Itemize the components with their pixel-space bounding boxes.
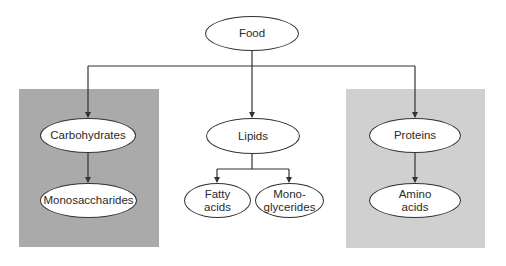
node-monoglycerides: Mono- glycerides (255, 183, 324, 218)
node-food: Food (205, 16, 299, 51)
node-fatty-acids-label: Fatty acids (204, 188, 231, 214)
node-amino-acids: Amino acids (369, 183, 461, 218)
node-lipids-label: Lipids (238, 130, 268, 143)
node-carbohydrates-label: Carbohydrates (50, 129, 125, 142)
node-monoglycerides-label: Mono- glycerides (264, 188, 316, 214)
node-lipids: Lipids (206, 118, 300, 154)
node-proteins-label: Proteins (394, 129, 436, 142)
node-food-label: Food (239, 27, 265, 40)
node-monosaccharides: Monosaccharides (40, 183, 137, 218)
node-monosaccharides-label: Monosaccharides (43, 194, 133, 207)
node-amino-acids-label: Amino acids (399, 188, 432, 214)
node-proteins: Proteins (369, 118, 461, 153)
node-carbohydrates: Carbohydrates (40, 118, 136, 153)
node-fatty-acids: Fatty acids (184, 183, 251, 218)
